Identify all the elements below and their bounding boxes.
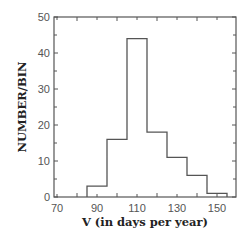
y-tick-label: 0	[44, 191, 50, 203]
y-axis-title: NUMBER/BIN	[15, 61, 29, 153]
histogram-outline	[87, 39, 227, 197]
y-tick-label: 30	[38, 83, 50, 95]
y-tick-label: 20	[38, 119, 50, 131]
plot-frame	[54, 17, 236, 197]
plot-border	[54, 17, 236, 197]
x-tick-label: 130	[168, 202, 186, 214]
tick-labels: 709011013015001020304050	[38, 11, 226, 214]
x-tick-label: 90	[91, 202, 103, 214]
histogram-bars	[87, 39, 227, 197]
y-tick-label: 40	[38, 47, 50, 59]
y-tick-label: 50	[38, 11, 50, 23]
y-tick-label: 10	[38, 155, 50, 167]
x-tick-label: 70	[51, 202, 63, 214]
x-axis-title: V (in days per year)	[81, 215, 208, 229]
x-tick-label: 150	[208, 202, 226, 214]
x-tick-label: 110	[128, 202, 146, 214]
histogram-chart: 709011013015001020304050 V (in days per …	[0, 0, 250, 238]
axis-ticks	[54, 17, 236, 197]
